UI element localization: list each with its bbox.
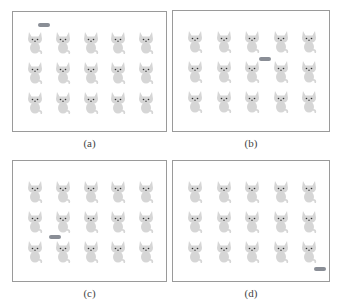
cat-icon <box>134 208 158 234</box>
cat-icon <box>106 89 130 115</box>
cat-icon <box>240 238 264 264</box>
cat-icon <box>240 58 264 84</box>
cat-icon <box>297 28 321 54</box>
cat-icon <box>212 238 236 264</box>
cat-icon <box>212 58 236 84</box>
cat-icon <box>23 89 47 115</box>
fish-icon <box>49 235 61 239</box>
cat-icon <box>212 88 236 114</box>
cat-icon <box>240 28 264 54</box>
cat-icon <box>51 178 75 204</box>
cat-icon <box>183 28 207 54</box>
cat-icon <box>240 178 264 204</box>
cat-icon <box>183 238 207 264</box>
cat-icon <box>212 208 236 234</box>
fish-icon <box>38 23 50 27</box>
cat-icon <box>106 178 130 204</box>
cat-icon <box>269 88 293 114</box>
cat-icon <box>106 29 130 55</box>
cat-icon <box>212 28 236 54</box>
cat-icon <box>23 208 47 234</box>
fish-icon <box>314 267 326 271</box>
cat-icon <box>79 208 103 234</box>
cat-icon <box>297 58 321 84</box>
cat-icon <box>79 89 103 115</box>
cat-icon <box>23 238 47 264</box>
cat-icon <box>79 29 103 55</box>
cat-icon <box>51 208 75 234</box>
cat-icon <box>269 178 293 204</box>
cat-icon <box>297 208 321 234</box>
cat-icon <box>183 208 207 234</box>
cat-icon <box>269 208 293 234</box>
cat-icon <box>134 238 158 264</box>
cat-icon <box>269 238 293 264</box>
fish-icon <box>259 57 271 61</box>
cat-icon <box>79 178 103 204</box>
cat-icon <box>240 88 264 114</box>
cat-icon <box>212 178 236 204</box>
cat-icon <box>106 59 130 85</box>
cat-icon <box>134 29 158 55</box>
cat-icon <box>297 88 321 114</box>
cat-icon <box>297 238 321 264</box>
cat-icon <box>240 208 264 234</box>
cat-icon <box>51 89 75 115</box>
panel-caption-b: (b) <box>221 137 281 149</box>
cat-icon <box>134 59 158 85</box>
cat-icon <box>269 58 293 84</box>
panel-caption-c: (c) <box>60 287 120 299</box>
cat-icon <box>51 29 75 55</box>
cat-icon <box>269 28 293 54</box>
cat-icon <box>183 178 207 204</box>
panel-d <box>172 160 330 282</box>
cat-icon <box>23 178 47 204</box>
cat-icon <box>183 88 207 114</box>
cat-icon <box>183 58 207 84</box>
panel-caption-a: (a) <box>60 137 120 149</box>
cat-icon <box>23 29 47 55</box>
cat-icon <box>134 178 158 204</box>
panel-c <box>12 160 167 282</box>
cat-icon <box>79 59 103 85</box>
cat-icon <box>51 59 75 85</box>
panel-a <box>12 11 167 132</box>
panel-b <box>172 10 330 132</box>
cat-icon <box>106 238 130 264</box>
panel-caption-d: (d) <box>221 287 281 299</box>
cat-icon <box>79 238 103 264</box>
cat-icon <box>106 208 130 234</box>
cat-icon <box>297 178 321 204</box>
cat-icon <box>134 89 158 115</box>
cat-icon <box>23 59 47 85</box>
cat-icon <box>51 238 75 264</box>
